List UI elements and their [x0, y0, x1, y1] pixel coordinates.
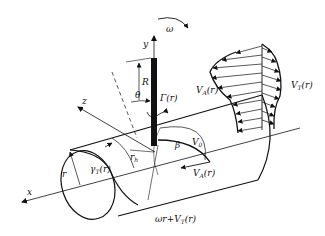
circulation-arrow-icon	[147, 112, 168, 117]
inflow-line	[148, 145, 158, 200]
theta-label: θ	[135, 90, 141, 100]
x-axis-label: x	[27, 187, 32, 197]
rh-label: rh	[130, 152, 138, 163]
gamma-t-label: γT(r)	[90, 164, 111, 175]
r-label: r	[62, 169, 67, 179]
va-vector-label: VA(r)	[193, 168, 216, 179]
y-axis-label: y	[142, 39, 149, 49]
propeller-velocity-diagram: x z y ω r γT(r) rh R θ	[0, 0, 325, 236]
R-label: R	[141, 77, 149, 87]
radius-line	[70, 152, 80, 185]
beta-label: β	[174, 140, 180, 150]
va-profile-label: VA(r)	[196, 85, 219, 96]
omega-r-label: ωr+VT(r)	[155, 214, 197, 225]
z-axis-label: z	[81, 96, 87, 106]
hub-cylinder	[52, 95, 270, 226]
velocity-profile	[210, 44, 281, 133]
propeller-blade	[151, 58, 157, 146]
vt-profile-curve	[262, 44, 281, 129]
vt-profile-label: VT(r)	[291, 80, 313, 91]
gamma-label: Γ(r)	[159, 93, 178, 103]
dashed-reference-line	[112, 72, 137, 138]
v0-label: V0	[192, 137, 203, 148]
omega-label: ω	[166, 24, 174, 34]
helical-vortex-line	[70, 150, 138, 205]
